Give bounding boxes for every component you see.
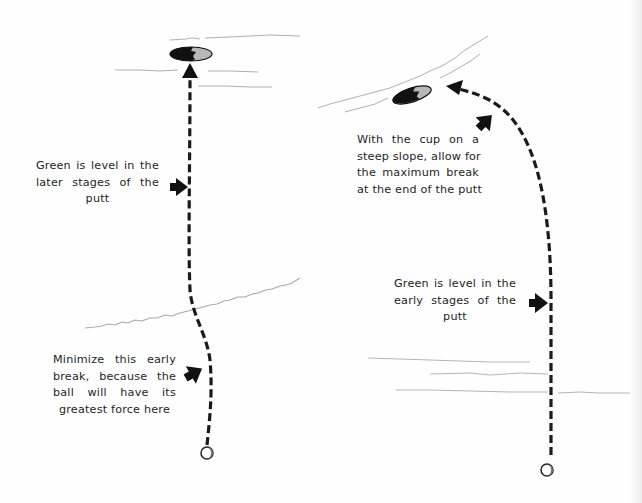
label-level-later-stages: Green is level in the later stages of th… bbox=[36, 158, 159, 208]
label-line: the maximum break bbox=[357, 165, 479, 182]
label-line: putt bbox=[36, 191, 159, 208]
path-arrowhead-icon bbox=[446, 80, 463, 95]
slope-contour-lines bbox=[115, 35, 300, 87]
slope-contour-lines bbox=[368, 358, 630, 393]
label-line: greatest force here bbox=[53, 402, 176, 419]
dashed-path-arrow bbox=[189, 75, 211, 445]
page-edge-shadow bbox=[630, 0, 642, 503]
pointer-arrow-icon bbox=[181, 360, 207, 387]
diagram-page: Green is level in the later stages of th… bbox=[0, 0, 642, 503]
path-arrowhead-icon bbox=[182, 63, 198, 78]
label-line: steep slope, allow for bbox=[357, 149, 479, 166]
label-line: With the cup on a bbox=[357, 132, 479, 149]
right-panel bbox=[318, 36, 630, 476]
pointer-arrow-icon bbox=[529, 293, 548, 313]
label-line: later stages of the bbox=[36, 175, 159, 192]
pointer-arrow-icon bbox=[170, 178, 188, 196]
label-line: Green is level in the bbox=[36, 158, 159, 175]
ball-icon bbox=[201, 447, 213, 459]
cup-icon bbox=[391, 82, 433, 108]
label-line: Green is level in the bbox=[394, 276, 516, 293]
label-line: at the end of the putt bbox=[357, 182, 479, 199]
ball-icon bbox=[541, 464, 553, 476]
label-line: early stages of the bbox=[394, 293, 516, 310]
label-minimize-early-break: Minimize this early break, because the b… bbox=[53, 352, 176, 418]
label-line: putt bbox=[394, 309, 516, 326]
putting-diagram bbox=[0, 0, 642, 503]
label-maximum-break: With the cup on a steep slope, allow for… bbox=[357, 132, 479, 198]
label-level-early-stages: Green is level in the early stages of th… bbox=[394, 276, 516, 326]
label-line: break, because the bbox=[53, 369, 176, 386]
cup-icon bbox=[170, 47, 212, 61]
label-line: ball will have its bbox=[53, 385, 176, 402]
label-line: Minimize this early bbox=[53, 352, 176, 369]
